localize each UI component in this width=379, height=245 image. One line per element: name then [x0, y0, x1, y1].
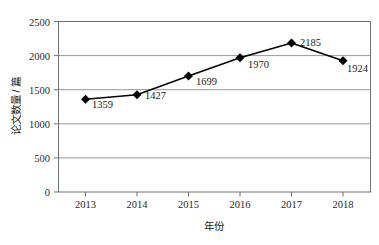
x-tick-label: 2013: [75, 199, 96, 210]
x-axis-title: 年份: [204, 220, 225, 232]
y-tick-label: 1500: [29, 85, 50, 96]
data-point-label: 1699: [196, 76, 217, 87]
data-point-label: 1970: [248, 59, 269, 70]
data-point-label: 2185: [300, 37, 321, 48]
y-tick-label: 0: [45, 187, 50, 198]
x-tick-label: 2016: [230, 199, 251, 210]
y-tick-label: 1000: [29, 119, 50, 130]
chart-canvas: 2500 2000 1500 1000 500 0 2013 2014 2015…: [0, 0, 379, 245]
x-tick-label: 2015: [178, 199, 199, 210]
y-axis-title: 论文数量 / 篇: [10, 77, 22, 136]
x-tick-label: 2017: [281, 199, 302, 210]
data-point-label: 1924: [347, 63, 369, 74]
y-tick-label: 500: [34, 153, 50, 164]
data-point-label: 1359: [92, 99, 113, 110]
y-tick-label: 2500: [29, 17, 50, 28]
x-tick-label: 2018: [333, 199, 354, 210]
x-tick-label: 2014: [127, 199, 149, 210]
data-point-label: 1427: [145, 90, 166, 101]
line-chart: 2500 2000 1500 1000 500 0 2013 2014 2015…: [0, 0, 379, 245]
y-tick-label: 2000: [29, 51, 50, 62]
